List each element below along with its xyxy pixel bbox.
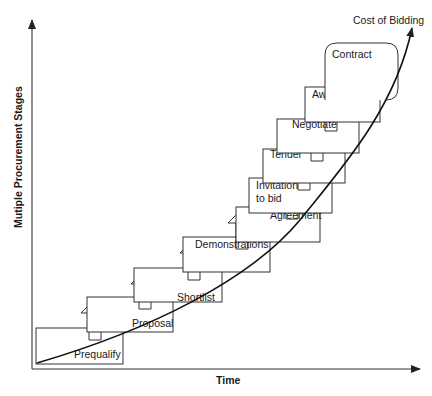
stage-label: Contract (332, 48, 372, 60)
stage-contract: Contract (325, 43, 398, 100)
y-axis-label: Mutiple Procurement Stages (12, 86, 24, 228)
stage-steps: PrequalifyProposalShortlistDemonstration… (36, 43, 398, 364)
procurement-diagram: PrequalifyProposalShortlistDemonstration… (0, 0, 432, 396)
x-axis-label: Time (216, 374, 240, 386)
cost-of-bidding-label: Cost of Bidding (353, 14, 424, 26)
stage-label-line2: to bid (256, 192, 282, 204)
